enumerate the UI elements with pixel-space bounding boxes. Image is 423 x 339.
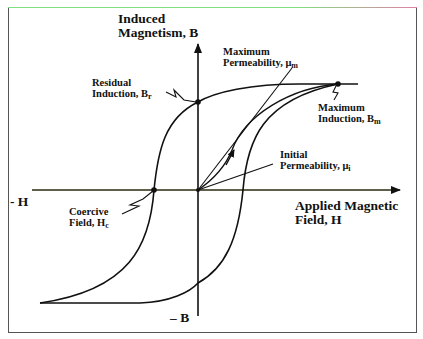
max-perm-line1: Maximum (223, 46, 298, 57)
init-perm-line1: Initial (280, 149, 351, 160)
max-perm-sub: m (291, 61, 298, 70)
residual-leader (166, 90, 196, 102)
initial-permeability-line (198, 164, 273, 190)
coercive-sub: c (105, 221, 109, 230)
y-axis-negative-label: – B (170, 311, 189, 325)
max-induction-label: Maximum Induction, Bm (318, 102, 381, 126)
max-induction-leader (333, 86, 338, 100)
max-ind-line1: Maximum (318, 102, 381, 113)
init-perm-line2: Permeability, μ (280, 160, 348, 171)
x-axis-label-line1: Applied Magnetic (295, 199, 398, 213)
residual-sub: r (148, 92, 152, 101)
y-axis-label: Induced Magnetism, B (118, 12, 198, 40)
coercive-leader (122, 191, 153, 214)
lower-branch-curve (40, 84, 338, 303)
x-axis-label: Applied Magnetic Field, H (295, 199, 398, 227)
residual-line2: Induction, B (92, 88, 148, 99)
residual-line1: Residual (92, 77, 152, 88)
coercive-line1: Coercive (69, 206, 109, 217)
coercive-field-label: Coercive Field, Hc (69, 206, 109, 230)
x-axis-negative-label: - H (10, 195, 28, 209)
residual-induction-point (195, 99, 201, 105)
hysteresis-diagram (0, 0, 423, 339)
max-perm-line2: Permeability, μ (223, 57, 291, 68)
upper-branch-curve (40, 84, 358, 303)
y-axis-label-line1: Induced (118, 12, 198, 26)
residual-induction-label: Residual Induction, Br (92, 77, 152, 101)
max-permeability-label: Maximum Permeability, μm (223, 46, 298, 70)
max-ind-line2: Induction, B (318, 113, 374, 124)
initial-permeability-label: Initial Permeability, μi (280, 149, 351, 173)
init-perm-sub: i (348, 164, 350, 173)
max-induction-point (335, 81, 341, 87)
coercive-line2: Field, H (69, 217, 105, 228)
origin-point (196, 188, 200, 192)
x-axis-label-line2: Field, H (295, 213, 398, 227)
y-axis-label-line2: Magnetism, B (118, 26, 198, 40)
max-ind-sub: m (374, 117, 381, 126)
